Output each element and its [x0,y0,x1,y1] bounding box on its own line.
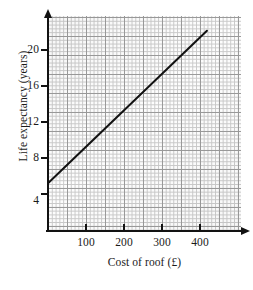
data-line-layer [0,0,253,290]
line-of-best-fit [48,31,207,184]
scatter-graph-figure: 20 16 12 8 4 100 200 300 400 Life expect… [0,0,253,290]
